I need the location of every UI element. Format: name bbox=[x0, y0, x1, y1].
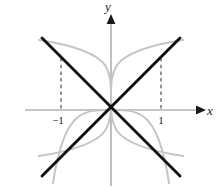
tick-label-one: 1 bbox=[158, 114, 164, 126]
graph-figure: x y −1 1 bbox=[0, 0, 223, 193]
coordinate-plane-svg: x y −1 1 bbox=[0, 0, 223, 193]
y-axis-label: y bbox=[103, 0, 111, 14]
x-axis-label: x bbox=[206, 103, 213, 118]
y-axis-arrow-icon bbox=[107, 14, 116, 24]
tick-label-negative-one: −1 bbox=[52, 114, 64, 126]
x-axis-arrow-icon bbox=[196, 106, 206, 115]
